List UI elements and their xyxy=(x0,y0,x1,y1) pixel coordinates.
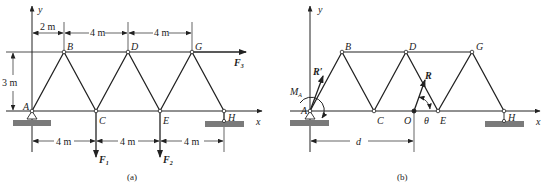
dim-top-1: 2 m xyxy=(40,21,56,32)
dim-bottom-2: 4 m xyxy=(120,136,136,147)
y-axis-label-b: y xyxy=(317,4,323,15)
point-o-label: O xyxy=(404,115,411,126)
node-g-label-b: G xyxy=(476,41,483,52)
node-c-label-b: C xyxy=(377,115,384,126)
force-f1-label: F1 xyxy=(98,154,109,166)
r-label: R xyxy=(424,70,432,81)
r-prime-label: R′ xyxy=(312,66,323,77)
theta-label: θ xyxy=(424,115,429,126)
point-o xyxy=(412,109,416,113)
dim-bottom-3: 4 m xyxy=(184,136,200,147)
ground-b-left xyxy=(290,120,329,126)
truss-figure: y x A B C D E G H 2 m 4 m 4 m 3 m 4 m 4 … xyxy=(0,0,543,183)
node-g-label: G xyxy=(195,41,202,52)
force-f3-label: F3 xyxy=(233,57,244,69)
node-d-label-b: D xyxy=(408,41,417,52)
node-a-label-b: A xyxy=(300,105,308,116)
node-b-label: B xyxy=(67,41,73,52)
ground-a-left xyxy=(13,120,51,126)
node-b-label-b: B xyxy=(345,41,351,52)
moment-label: MA xyxy=(289,86,302,98)
node-a-label: A xyxy=(22,101,30,112)
panel-b xyxy=(290,6,540,152)
dim-height: 3 m xyxy=(2,77,18,88)
caption-b: (b) xyxy=(397,172,408,182)
node-c-label: C xyxy=(99,115,106,126)
node-e-label: E xyxy=(162,115,169,126)
node-d-label: D xyxy=(130,41,139,52)
dim-bottom-1: 4 m xyxy=(56,136,72,147)
node-h-label: H xyxy=(227,112,236,123)
node-h-label-b: H xyxy=(507,112,516,123)
distance-d-label: d xyxy=(356,136,362,147)
y-axis-label-a: y xyxy=(37,4,43,15)
truss-web-b xyxy=(310,52,504,111)
node-e-label-b: E xyxy=(439,115,446,126)
theta-arc xyxy=(419,97,430,109)
resultant-r-prime-arrow xyxy=(310,76,323,111)
truss-web-a xyxy=(32,52,224,111)
caption-a: (a) xyxy=(127,172,137,182)
dim-top-2: 4 m xyxy=(90,27,106,38)
x-axis-label-b: x xyxy=(535,116,541,127)
force-f2-label: F2 xyxy=(162,154,173,166)
x-axis-label-a: x xyxy=(255,116,261,127)
resultant-r-arrow xyxy=(414,80,425,111)
dim-top-3: 4 m xyxy=(154,27,170,38)
